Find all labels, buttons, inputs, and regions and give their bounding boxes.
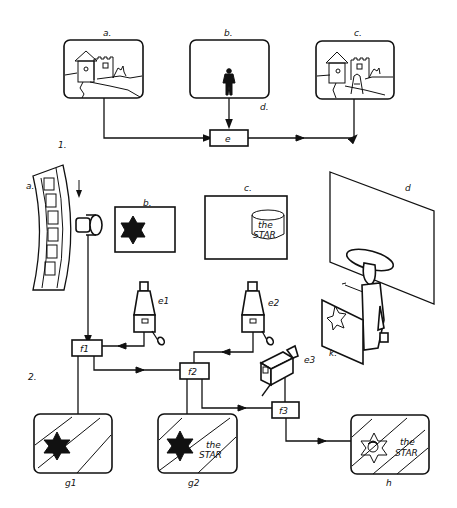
mixer-f3: f3 <box>272 402 352 444</box>
mixer-f1: f1 <box>72 340 180 414</box>
mixer-f2: f2 <box>180 363 272 414</box>
mixer-e: e <box>210 98 354 146</box>
camera-e3: e3 <box>261 346 316 402</box>
section-label-2: 2. <box>28 372 37 382</box>
camera-e2-label: e2 <box>268 298 280 308</box>
film-strip-label: a. <box>26 181 34 191</box>
output-h: the STAR h <box>351 415 429 488</box>
backdrop-label: d <box>405 183 411 193</box>
mixer-f3-label: f3 <box>279 406 288 416</box>
screen-a: a. <box>64 28 208 138</box>
output-g2-text-line2: STAR <box>199 450 222 460</box>
panel-k-label: k. <box>329 348 337 358</box>
camera-e2: e2 <box>194 282 280 363</box>
card-b: b. <box>115 198 175 252</box>
output-h-text-line2: STAR <box>395 448 418 458</box>
video-compositing-diagram: 1. a. b. d. <box>0 0 457 508</box>
screen-b: b. d. <box>190 28 269 124</box>
card-c-label: c. <box>244 183 252 193</box>
mixer-f1-label: f1 <box>80 344 89 354</box>
output-g1-label: g1 <box>65 478 76 488</box>
part-1: 1. a. b. d. <box>58 28 394 150</box>
film-strip: a. <box>26 165 102 340</box>
mixer-e-label: e <box>225 134 231 144</box>
svg-text:the: the <box>258 220 273 230</box>
backdrop-d: d <box>330 172 434 304</box>
foreground-panel-k: k. <box>322 300 363 364</box>
card-c: c. the STAR <box>205 183 287 259</box>
output-h-text-line1: the <box>400 437 415 447</box>
screen-c-label: c. <box>354 28 362 38</box>
output-g2-text-line1: the <box>206 440 221 450</box>
camera-e3-label: e3 <box>304 355 316 365</box>
output-g2: the STAR g2 <box>158 414 237 488</box>
screen-b-label: b. <box>224 28 233 38</box>
part-2: 2. a. b. <box>26 165 434 488</box>
output-g2-label: g2 <box>188 478 200 488</box>
screen-a-label: a. <box>103 28 111 38</box>
camera-e1-label: e1 <box>158 296 169 306</box>
svg-text:STAR: STAR <box>253 230 276 240</box>
mixer-f2-label: f2 <box>188 367 197 377</box>
camera-e1: e1 <box>102 282 169 349</box>
output-g1: g1 <box>34 414 112 488</box>
section-label-1: 1. <box>58 140 67 150</box>
signal-label-d: d. <box>260 102 269 112</box>
output-h-label: h <box>386 478 392 488</box>
projector-lens-icon <box>76 215 102 235</box>
screen-c: c. <box>316 28 394 99</box>
